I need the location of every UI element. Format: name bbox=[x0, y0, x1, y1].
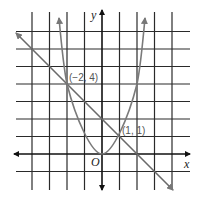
grid bbox=[16, 12, 190, 190]
x-axis-label: x bbox=[183, 157, 190, 171]
point-label-neg2-4: (−2, 4) bbox=[69, 72, 98, 83]
y-axis-label: y bbox=[90, 8, 97, 22]
point-label-1-1: (1, 1) bbox=[122, 125, 145, 136]
line-y-neg-x-plus-2 bbox=[16, 33, 67, 84]
axes bbox=[14, 10, 190, 190]
coordinate-graph: y x O (−2, 4) (1, 1) bbox=[0, 0, 201, 198]
origin-label: O bbox=[91, 155, 100, 169]
parabola-left-branch bbox=[59, 18, 102, 154]
